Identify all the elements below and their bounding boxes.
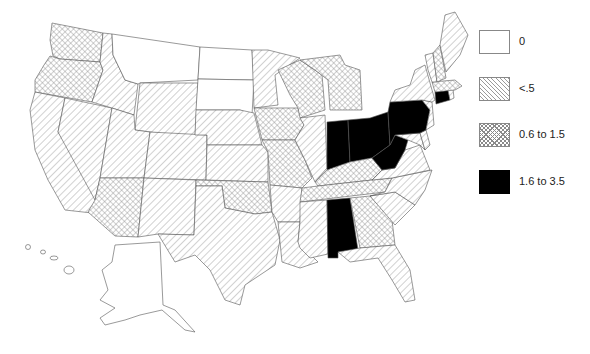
legend-label-low: <.5 bbox=[519, 82, 535, 94]
state-FL[interactable] bbox=[338, 245, 415, 302]
legend-item-high: 1.6 to 3.5 bbox=[479, 170, 510, 194]
state-ND[interactable] bbox=[198, 47, 254, 80]
legend-label-zero: 0 bbox=[519, 35, 525, 47]
state-MS[interactable] bbox=[298, 200, 328, 258]
state-ME[interactable] bbox=[440, 12, 468, 72]
legend-item-mid: 0.6 to 1.5 bbox=[479, 123, 510, 147]
state-CO[interactable] bbox=[144, 132, 207, 180]
legend-label-high: 1.6 to 3.5 bbox=[519, 175, 565, 187]
legend-swatch-zero bbox=[479, 30, 510, 54]
state-CT[interactable] bbox=[435, 90, 450, 104]
state-HI[interactable] bbox=[26, 245, 75, 275]
state-KS[interactable] bbox=[206, 145, 268, 182]
state-WY[interactable] bbox=[135, 83, 198, 138]
legend-swatch-high bbox=[479, 170, 510, 194]
state-IN[interactable] bbox=[327, 120, 350, 170]
noncontiguous-states bbox=[26, 242, 196, 332]
legend-swatch-mid bbox=[479, 123, 510, 147]
contiguous-states bbox=[30, 12, 468, 305]
state-SD[interactable] bbox=[196, 79, 254, 115]
legend-label-mid: 0.6 to 1.5 bbox=[519, 128, 565, 140]
state-MT[interactable] bbox=[112, 34, 200, 84]
state-AR[interactable] bbox=[270, 185, 302, 222]
state-WA[interactable] bbox=[50, 23, 103, 62]
state-IA[interactable] bbox=[254, 108, 304, 140]
legend-item-zero: 0 bbox=[479, 30, 510, 54]
state-NM[interactable] bbox=[138, 178, 196, 237]
legend-item-low: <.5 bbox=[479, 77, 510, 101]
legend-swatch-low bbox=[479, 77, 510, 101]
